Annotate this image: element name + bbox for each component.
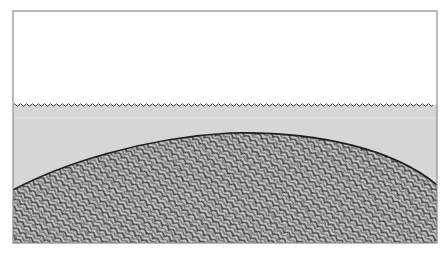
- cross-section-diagram: [0, 0, 446, 254]
- air-region: [13, 11, 437, 105]
- diagram-stage: [0, 0, 446, 254]
